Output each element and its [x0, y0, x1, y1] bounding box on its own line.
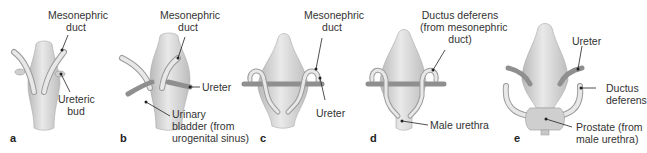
- panel-c: Mesonephric duct Ureter c: [244, 0, 368, 153]
- label-male-urethra: Male urethra: [430, 119, 489, 131]
- panel-letter: d: [370, 132, 377, 144]
- label-ureteric-bud: Ureteric bud: [58, 93, 94, 117]
- label-mesonephric-duct: Mesonephric duct: [48, 9, 104, 33]
- panel-b: Mesonephric duct Ureter Urinary bladder …: [120, 0, 244, 153]
- label-ureter: Ureter: [202, 81, 231, 93]
- panel-d: Ductus deferens (from mesonephric duct) …: [368, 0, 500, 153]
- panel-letter: e: [514, 132, 520, 144]
- label-ureter: Ureter: [572, 35, 601, 47]
- label-ductus-deferens: Ductus deferens (from mesonephric duct): [420, 9, 500, 45]
- label-mesonephric-duct: Mesonephric duct: [304, 9, 360, 33]
- label-ductus-deferens: Ductus deferens: [606, 82, 647, 106]
- panel-letter: b: [120, 132, 127, 144]
- panel-letter: a: [10, 132, 16, 144]
- panel-letter: c: [260, 132, 266, 144]
- label-prostate: Prostate (from male urethra): [576, 121, 643, 145]
- label-mesonephric-duct: Mesonephric duct: [160, 9, 216, 33]
- label-ureter: Ureter: [316, 107, 345, 119]
- panel-a: Mesonephric duct Ureteric bud a: [0, 0, 120, 153]
- label-urinary-bladder: Urinary bladder (from urogenital sinus): [172, 108, 249, 144]
- panel-e: Ureter Ductus deferens Prostate (from ma…: [500, 0, 646, 153]
